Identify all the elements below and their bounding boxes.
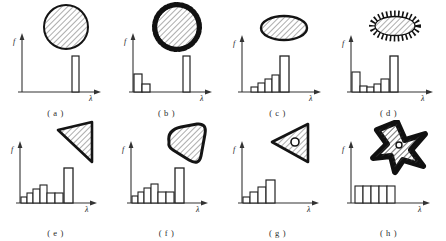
bar bbox=[142, 84, 150, 92]
panel-caption-d: ( d ) bbox=[333, 108, 444, 118]
panel-caption-e: ( e ) bbox=[0, 228, 111, 238]
panel-caption-c: ( c ) bbox=[222, 108, 333, 118]
bar bbox=[134, 74, 142, 92]
histogram-g bbox=[243, 180, 275, 203]
panel-e: f λ ( e ) bbox=[0, 120, 111, 240]
bar bbox=[166, 192, 174, 203]
panel-h: f λ ( h ) bbox=[333, 120, 444, 240]
y-axis-label: f bbox=[342, 39, 346, 48]
bar bbox=[138, 192, 144, 203]
bar bbox=[379, 186, 387, 203]
bar bbox=[250, 192, 258, 203]
panel-e-graphic: f λ bbox=[0, 120, 111, 240]
histogram-b bbox=[134, 56, 190, 92]
bar bbox=[40, 185, 47, 203]
panel-caption-b: ( b ) bbox=[111, 108, 222, 118]
panel-caption-g: ( g ) bbox=[222, 228, 333, 238]
y-axis-label: f bbox=[233, 39, 237, 48]
panel-g: f λ ( g ) bbox=[222, 120, 333, 240]
panel-d-graphic: f λ bbox=[333, 0, 444, 120]
panel-f: f λ ( f ) bbox=[111, 120, 222, 240]
panel-a-graphic: f λ bbox=[0, 0, 111, 120]
bar bbox=[251, 87, 258, 92]
shape-ellipse-smooth bbox=[261, 16, 307, 40]
bar bbox=[280, 56, 289, 92]
bar bbox=[374, 84, 381, 92]
x-axis-label: λ bbox=[417, 205, 422, 214]
y-axis-label: f bbox=[342, 145, 346, 154]
bar bbox=[266, 180, 275, 203]
bar bbox=[258, 187, 266, 203]
shape-star-spiky bbox=[373, 122, 425, 172]
histogram-f bbox=[132, 168, 184, 203]
bar bbox=[47, 193, 55, 203]
bar bbox=[151, 184, 158, 203]
bar bbox=[387, 186, 395, 203]
bar bbox=[55, 193, 63, 203]
bar bbox=[265, 79, 272, 92]
y-axis-label: f bbox=[13, 37, 17, 46]
shape-triangle-with-hole bbox=[272, 124, 308, 162]
bar bbox=[367, 87, 374, 92]
bar bbox=[183, 56, 190, 92]
shape-hole bbox=[396, 142, 402, 148]
y-axis-label: f bbox=[11, 145, 15, 154]
bar bbox=[352, 72, 360, 92]
panel-c: f λ ( c ) bbox=[222, 0, 333, 120]
bar bbox=[64, 168, 73, 203]
bar bbox=[33, 189, 40, 203]
histogram-h bbox=[355, 186, 395, 203]
bar bbox=[132, 196, 138, 203]
bar bbox=[144, 188, 151, 203]
bar bbox=[27, 193, 33, 203]
bar bbox=[258, 83, 265, 92]
bar bbox=[360, 86, 367, 92]
bar bbox=[243, 197, 250, 203]
y-axis-label: f bbox=[124, 37, 128, 46]
bar bbox=[21, 197, 27, 203]
panel-d: f λ ( d ) bbox=[333, 0, 444, 120]
x-axis-label: λ bbox=[420, 94, 425, 103]
shape-circle-smooth bbox=[44, 5, 88, 49]
bar bbox=[371, 186, 379, 203]
histogram-c bbox=[251, 56, 289, 92]
shape-triangle-left bbox=[58, 122, 92, 162]
x-axis-label: λ bbox=[306, 205, 311, 214]
figure-multi-panel-shape-signatures: f λ ( a ) bbox=[0, 0, 446, 241]
y-axis-label: f bbox=[122, 145, 126, 154]
y-axis-label: f bbox=[233, 145, 237, 154]
bar bbox=[381, 79, 389, 92]
shape-hole bbox=[291, 138, 299, 146]
x-axis-label: λ bbox=[88, 94, 93, 103]
x-axis-label: λ bbox=[84, 205, 89, 214]
bar bbox=[363, 186, 371, 203]
panel-a: f λ ( a ) bbox=[0, 0, 111, 120]
panel-b: f λ ( b ) bbox=[111, 0, 222, 120]
panel-c-graphic: f λ bbox=[222, 0, 333, 120]
panel-caption-a: ( a ) bbox=[0, 108, 111, 118]
panel-caption-f: ( f ) bbox=[111, 228, 222, 238]
x-axis-label: λ bbox=[199, 94, 204, 103]
histogram-e bbox=[21, 168, 73, 203]
panel-f-graphic: f λ bbox=[111, 120, 222, 240]
panel-b-graphic: f λ bbox=[111, 0, 222, 120]
shape-triangle-rounded bbox=[169, 124, 206, 162]
bar bbox=[72, 56, 79, 92]
bar bbox=[175, 168, 184, 203]
histogram-a bbox=[72, 56, 79, 92]
panel-g-graphic: f λ bbox=[222, 120, 333, 240]
bar bbox=[158, 192, 166, 203]
x-axis-label: λ bbox=[195, 205, 200, 214]
x-axis-label: λ bbox=[308, 94, 313, 103]
panel-h-graphic: f λ bbox=[333, 120, 444, 240]
shape-ellipse-spiky bbox=[372, 14, 418, 39]
panel-caption-h: ( h ) bbox=[333, 228, 444, 238]
bar bbox=[390, 56, 398, 92]
bar bbox=[272, 75, 279, 92]
bar bbox=[355, 186, 363, 203]
histogram-d bbox=[352, 56, 398, 92]
shape-circle-serrated bbox=[155, 5, 200, 50]
